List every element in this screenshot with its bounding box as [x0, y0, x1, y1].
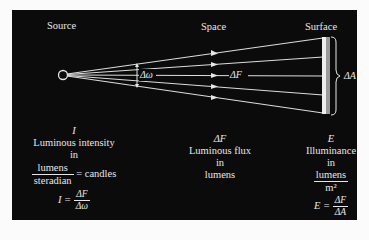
- space-column: ΔF Luminous flux in lumens: [175, 133, 265, 181]
- source-unit-expression: lumens steradian = candles: [16, 162, 132, 187]
- header-space: Space: [201, 21, 226, 32]
- surface-column: E Illuminance in lumens m² E = ΔF ΔA: [296, 133, 366, 218]
- header-source: Source: [47, 20, 76, 31]
- label-area: ΔA: [344, 70, 356, 81]
- surface-shading: [326, 37, 330, 114]
- light-rays: [67, 38, 323, 113]
- surface-plane: [322, 37, 326, 114]
- area-brace-icon: [331, 37, 340, 115]
- source-point-icon: [59, 71, 68, 80]
- surface-formula: E = ΔF ΔA: [296, 195, 366, 218]
- surface-quantity: Illuminance: [296, 145, 366, 157]
- space-quantity: Luminous flux: [175, 145, 265, 157]
- source-unit-equals: = candles: [76, 168, 116, 179]
- space-in: in: [175, 157, 265, 169]
- header-surface: Surface: [305, 21, 337, 32]
- source-symbol: I: [16, 125, 132, 137]
- source-quantity: Luminous intensity: [16, 137, 132, 149]
- space-unit: lumens: [175, 169, 265, 181]
- source-in: in: [16, 149, 132, 161]
- source-formula: I = ΔF Δω: [16, 189, 132, 212]
- surface-in: in: [296, 157, 366, 169]
- space-symbol: ΔF: [175, 133, 265, 145]
- ray-arrows: [211, 50, 218, 100]
- surface-symbol: E: [296, 133, 366, 145]
- source-column: I Luminous intensity in lumens steradian…: [16, 125, 132, 212]
- label-flux: ΔF: [230, 69, 242, 80]
- source-unit-fraction: lumens steradian: [32, 162, 74, 187]
- surface-unit-expression: lumens m²: [296, 169, 366, 194]
- label-solid-angle: Δω: [140, 69, 153, 80]
- surface-unit-fraction: lumens m²: [314, 169, 348, 194]
